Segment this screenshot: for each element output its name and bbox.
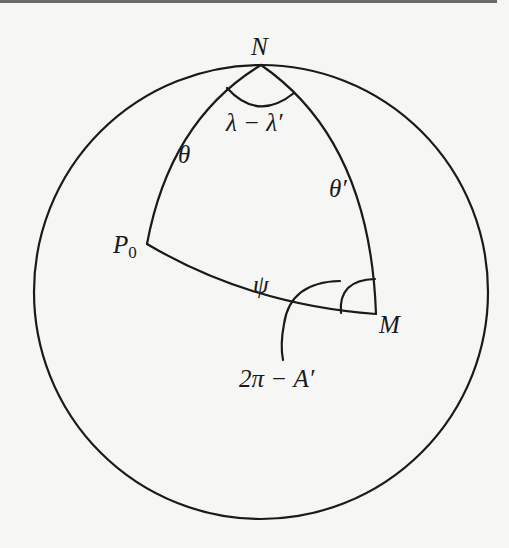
label-two-pi-minus-a-prime: 2π − A′ bbox=[239, 365, 315, 392]
label-psi: ψ bbox=[253, 271, 269, 298]
label-lambda-difference: λ − λ′ bbox=[225, 109, 283, 136]
label-n: N bbox=[250, 33, 269, 60]
label-p0-subscript: 0 bbox=[128, 243, 137, 262]
label-theta: θ bbox=[178, 141, 190, 168]
label-p0: P0 bbox=[112, 231, 137, 262]
angle-arc-at-m-outer bbox=[282, 281, 340, 360]
label-p0-main: P bbox=[112, 231, 128, 258]
label-m: M bbox=[378, 311, 401, 338]
label-theta-prime: θ′ bbox=[329, 175, 347, 202]
side-theta-arc bbox=[147, 65, 261, 244]
angle-arc-at-n bbox=[227, 88, 294, 106]
spherical-triangle-figure: N P0 M θ θ′ ψ λ − λ′ 2π − A′ bbox=[0, 0, 509, 548]
angle-arc-at-m-inner bbox=[341, 279, 375, 313]
